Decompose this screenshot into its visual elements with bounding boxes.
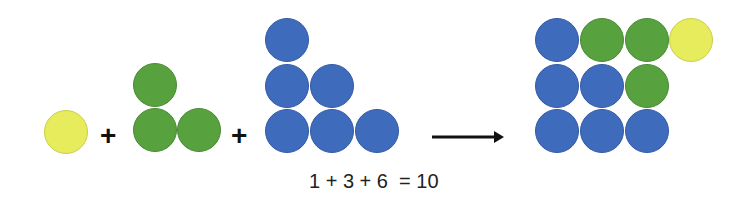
triangular-numbers-sum-diagram: + + 1 + 3 + 6 = 10 [0, 0, 748, 200]
equation-text: 1 + 3 + 6 = 10 [309, 170, 439, 193]
